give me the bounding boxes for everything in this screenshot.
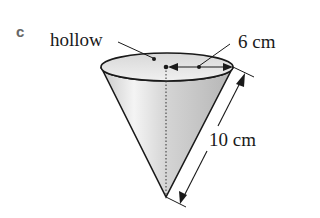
center-point xyxy=(164,65,169,70)
radius-label: 6 cm xyxy=(238,32,275,51)
slant-label: 10 cm xyxy=(209,130,256,149)
hollow-label: hollow xyxy=(50,30,103,49)
